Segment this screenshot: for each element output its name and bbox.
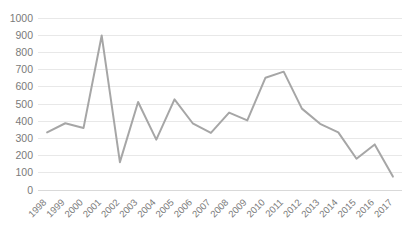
y-axis-tick-label: 1000 [10,12,34,24]
x-axis-tick-label: 2003 [117,197,140,220]
y-axis-tick-label: 0 [27,184,33,196]
x-axis-tick-label: 1998 [26,197,49,220]
y-axis-tick-label: 500 [15,98,33,110]
x-axis-tick-label: 2013 [299,197,322,220]
x-axis-tick-label: 2002 [99,197,122,220]
y-axis-tick-label: 300 [15,132,33,144]
x-axis-tick-label: 2015 [335,197,358,220]
x-axis-tick-label: 2008 [208,197,231,220]
x-axis-tick-label: 2014 [317,197,340,220]
x-axis-tick-label: 2005 [153,197,176,220]
x-axis-tick-label: 1999 [44,197,67,220]
y-axis-tick-label: 900 [15,29,33,41]
y-axis-tick-label: 200 [15,149,33,161]
x-axis-tick-label: 2006 [171,197,194,220]
y-axis-tick-label: 800 [15,46,33,58]
x-axis-tick-label: 2016 [353,197,376,220]
y-axis-tick-label: 600 [15,80,33,92]
y-axis-tick-label: 700 [15,63,33,75]
chart-canvas: 01002003004005006007008009001000 1998199… [0,0,417,231]
x-axis-tick-label: 2012 [281,197,304,220]
y-axis-tick-label: 400 [15,115,33,127]
x-axis-tick-label: 2000 [62,197,85,220]
x-axis-tick-label: 2017 [372,197,395,220]
x-axis-tick-label: 2009 [226,197,249,220]
x-axis-tick-label: 2007 [190,197,213,220]
y-axis-tick-label: 100 [15,166,33,178]
gridlines [38,18,402,190]
x-axis-tick-label: 2001 [80,197,103,220]
x-axis-tick-label: 2004 [135,197,158,220]
x-axis-tick-label: 2010 [244,197,267,220]
x-axis-tick-labels: 1998199920002001200220032004200520062007… [26,197,395,220]
line-chart: 01002003004005006007008009001000 1998199… [0,0,417,231]
y-axis-tick-labels: 01002003004005006007008009001000 [10,12,34,196]
x-axis-tick-label: 2011 [263,197,285,219]
